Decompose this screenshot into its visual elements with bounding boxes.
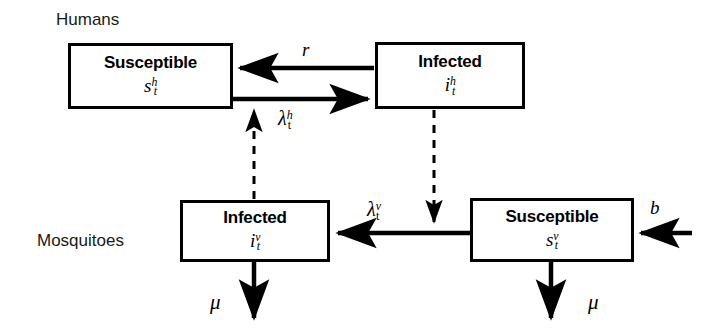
box-mosquito-susceptible-title: Susceptible xyxy=(505,208,598,225)
symbol-base: s xyxy=(144,75,151,96)
box-mosquito-susceptible-symbol: svt xyxy=(546,230,558,253)
compartment-diagram: Humans Mosquitoes Susceptible sht Infect… xyxy=(0,0,703,335)
box-mosquito-infected-title: Infected xyxy=(223,209,287,226)
box-mosquito-infected[interactable]: Infected ivt xyxy=(180,200,330,262)
symbol-subscript: t xyxy=(555,239,558,252)
symbol-subscript: t xyxy=(257,240,260,253)
box-mosquito-susceptible[interactable]: Susceptible svt xyxy=(470,198,634,262)
group-label-humans: Humans xyxy=(56,10,119,30)
edge-label-mortality-left: μ xyxy=(210,292,221,313)
edge-label-vector-force-of-infection: λvt xyxy=(367,199,379,222)
box-human-infected-symbol: iht xyxy=(445,75,456,98)
edge-label-mortality-right: μ xyxy=(588,292,599,313)
symbol-subscript: t xyxy=(154,85,157,98)
lambda-base: λ xyxy=(367,198,376,220)
lambda-subscript: t xyxy=(288,118,291,132)
edge-label-recovery-rate: r xyxy=(302,40,309,59)
box-human-susceptible[interactable]: Susceptible sht xyxy=(68,43,233,109)
box-human-susceptible-symbol: sht xyxy=(144,76,157,99)
lambda-subscript: t xyxy=(376,209,379,223)
box-human-susceptible-title: Susceptible xyxy=(104,54,197,71)
symbol-subscript: t xyxy=(452,85,455,98)
lambda-base: λ xyxy=(278,107,287,129)
edge-label-human-force-of-infection: λht xyxy=(278,108,291,131)
box-human-infected-title: Infected xyxy=(418,53,482,70)
box-mosquito-infected-symbol: ivt xyxy=(250,231,260,254)
box-human-infected[interactable]: Infected iht xyxy=(375,42,525,109)
group-label-mosquitoes: Mosquitoes xyxy=(37,231,124,251)
edge-label-birth-rate: b xyxy=(650,198,660,217)
